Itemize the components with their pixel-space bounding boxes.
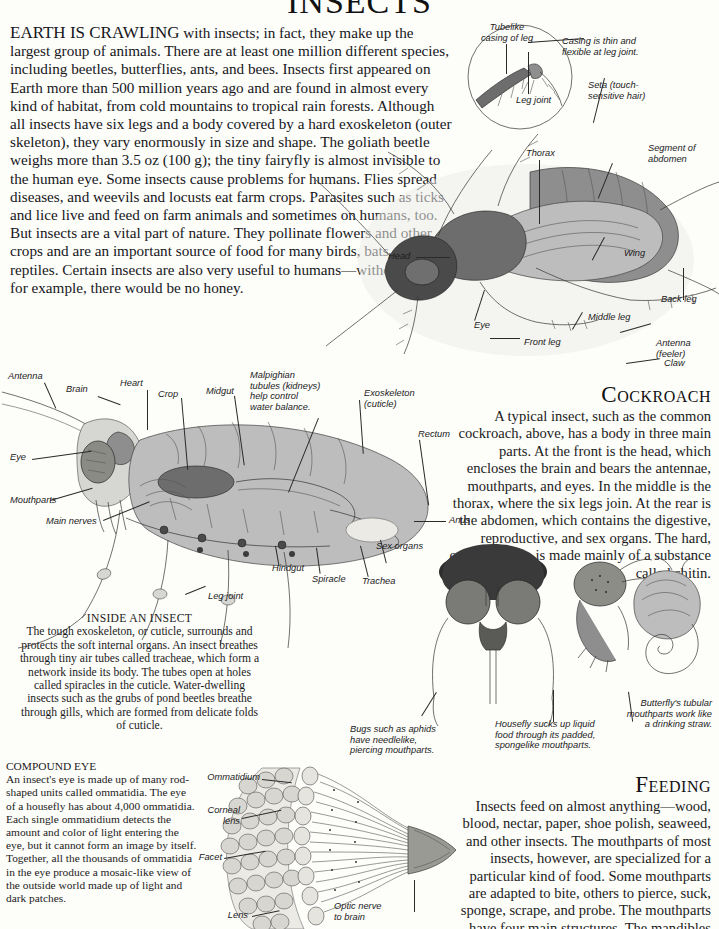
label-optic-nerve: Optic nerve to brain xyxy=(334,901,408,922)
label-rectum: Rectum xyxy=(418,429,450,440)
label-mouthparts: Mouthparts xyxy=(10,495,57,506)
feeding-heading: Feeding xyxy=(449,772,711,798)
label-wing: Wing xyxy=(624,248,645,259)
insect-anatomy-illustration xyxy=(0,378,470,648)
page-title: INSECTS xyxy=(0,0,719,21)
label-segment-of-abdomen: Segment of abdomen xyxy=(648,143,714,164)
leader-optic-nerve xyxy=(414,880,415,912)
leader-head xyxy=(416,257,450,258)
cockroach-heading: Cockroach xyxy=(449,382,711,408)
label-eye-cockroach: Eye xyxy=(474,320,490,331)
label-main-nerves: Main nerves xyxy=(46,516,97,527)
inside-an-insect-heading: INSIDE AN INSECT xyxy=(18,612,261,625)
label-leg-joint-anatomy: Leg joint xyxy=(208,591,243,602)
label-head: Head xyxy=(388,251,410,262)
intro-lead-words: EARTH IS CRAWLING xyxy=(10,23,180,42)
leader-legjoint xyxy=(528,52,529,94)
feeding-section: Feeding Insects feed on almost anything—… xyxy=(449,772,711,929)
compound-eye-section: COMPOUND EYE An insect's eye is made up … xyxy=(6,760,198,905)
label-malpighian-tubules: Malpighian tubules (kidneys) help contro… xyxy=(250,370,338,412)
encyclopedia-page: INSECTS EARTH IS CRAWLING with insects; … xyxy=(0,0,719,929)
label-brain: Brain xyxy=(66,384,88,395)
caption-housefly-mouthparts: Housefly sucks up liquid food through it… xyxy=(495,719,605,751)
label-front-leg: Front leg xyxy=(524,337,561,348)
label-eye-anatomy: Eye xyxy=(10,452,26,463)
leader-front-leg xyxy=(490,338,520,339)
label-spiracle: Spiracle xyxy=(312,574,346,585)
inside-an-insect-body: The tough exoskeleton, or cuticle, surro… xyxy=(20,625,259,732)
leader-thorax xyxy=(539,160,540,224)
label-crop: Crop xyxy=(158,389,178,400)
label-lens: Lens xyxy=(208,910,248,921)
label-ommatidium: Ommatidium xyxy=(190,772,260,783)
label-seta: Seta (touch- sensitive hair) xyxy=(588,80,678,101)
housefly-head-illustration xyxy=(428,536,558,726)
feeding-body: Insects feed on almost anything—wood, bl… xyxy=(449,798,711,929)
leader-anus xyxy=(414,521,446,522)
label-midgut: Midgut xyxy=(206,386,234,397)
label-anus: Anus xyxy=(449,515,470,526)
leader-tubelike xyxy=(506,44,507,74)
caption-aphid-mouthparts: Bugs such as aphids have needlelike, pie… xyxy=(350,724,460,756)
label-exoskeleton-cuticle: Exoskeleton (cuticle) xyxy=(364,388,428,409)
leader-heart xyxy=(147,390,148,430)
label-hindgut: Hindgut xyxy=(272,563,304,574)
label-heart: Heart xyxy=(120,378,143,389)
butterfly-proboscis-illustration xyxy=(612,560,716,700)
label-back-leg: Back leg xyxy=(661,294,697,305)
label-sex-organs: Sex organs xyxy=(376,541,423,552)
label-middle-leg: Middle leg xyxy=(588,312,630,323)
label-antenna-feeler: Antenna (feeler) xyxy=(656,338,716,359)
label-leg-joint-detail: Leg joint xyxy=(516,95,576,106)
caption-butterfly-mouthparts: Butterfly's tubular mouthparts work like… xyxy=(608,698,712,730)
label-trachea: Trachea xyxy=(362,576,395,587)
label-casing-is-thin: Casing is thin and flexible at leg joint… xyxy=(562,36,662,57)
compound-eye-body: An insect's eye is made up of many rod-s… xyxy=(6,773,196,904)
inside-an-insect-section: INSIDE AN INSECT The tough exoskeleton, … xyxy=(18,612,261,733)
leader-housefly-caption xyxy=(553,690,554,722)
label-antenna: Antenna xyxy=(8,371,43,382)
label-claw: Claw xyxy=(664,358,685,369)
label-tubelike-casing-of-leg: Tubelike casing of leg xyxy=(472,22,542,43)
label-thorax: Thorax xyxy=(526,148,555,159)
compound-eye-heading: COMPOUND EYE xyxy=(6,760,198,773)
